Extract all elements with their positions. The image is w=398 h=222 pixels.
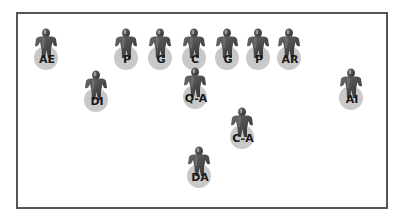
player-marker-da: DA xyxy=(183,146,217,190)
player-marker-ai: AI xyxy=(335,68,369,112)
player-marker-c-a: C-A xyxy=(226,107,260,151)
player-label: AE xyxy=(20,53,74,66)
player-marker-ae: AE xyxy=(30,28,64,72)
player-label: AI xyxy=(325,93,379,106)
player-marker-q-a: Q-A xyxy=(179,67,213,111)
player-label: DA xyxy=(173,171,227,184)
player-label: C-A xyxy=(216,132,270,145)
player-marker-di: DI xyxy=(80,70,114,114)
player-marker-ar: AR xyxy=(273,28,307,72)
player-label: Q-A xyxy=(169,92,223,105)
player-label: AR xyxy=(263,53,317,66)
player-label: DI xyxy=(70,95,124,108)
